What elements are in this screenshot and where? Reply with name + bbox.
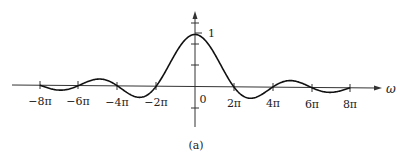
x-tick-label: −8π <box>28 95 51 108</box>
x-tick-label: −2π <box>144 96 167 109</box>
x-tick-label: 8π <box>343 98 357 111</box>
x-axis-arrow-icon <box>374 86 382 91</box>
x-tick-label: 4π <box>266 97 280 110</box>
x-tick-label: 2π <box>227 97 241 110</box>
x-tick-label: −6π <box>66 95 89 108</box>
y-tick-label-1: 1 <box>208 27 215 40</box>
x-tick-label: 6π <box>305 98 319 111</box>
origin-label: 0 <box>200 93 207 106</box>
y-axis-arrow-icon <box>193 11 198 19</box>
figure-caption: (a) <box>188 139 203 152</box>
sinc-chart: ω 1 −8π −6π −4π −2π 0 2π 4π 6π 8π (a) <box>0 0 410 154</box>
x-axis-label: ω <box>386 82 396 96</box>
x-tick-label: −4π <box>105 96 128 109</box>
